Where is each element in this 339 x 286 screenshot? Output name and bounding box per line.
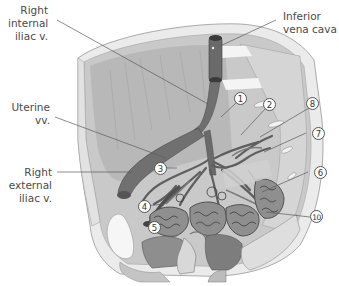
- callout-4: 4: [138, 200, 151, 213]
- callout-1: 1: [234, 92, 247, 105]
- anatomical-illustration: [0, 0, 339, 286]
- label-right-external-iliac-vein: Right external iliac v.: [4, 166, 52, 205]
- callout-7: 7: [312, 127, 325, 140]
- callout-8: 8: [306, 97, 319, 110]
- callout-3: 3: [154, 162, 167, 175]
- label-right-internal-iliac-vein: Right internal iliac v.: [8, 4, 48, 43]
- callout-10: 10: [310, 210, 323, 223]
- callout-2: 2: [263, 98, 276, 111]
- label-inferior-vena-cava: Inferior vena cava: [283, 10, 339, 36]
- pelvic-venous-diagram: Right internal iliac v. Uterine vv. Righ…: [0, 0, 339, 286]
- inferior-vena-cava-vessel: [209, 36, 222, 82]
- callout-5: 5: [148, 221, 161, 234]
- label-uterine-veins: Uterine vv.: [8, 101, 50, 127]
- callout-6: 6: [314, 166, 327, 179]
